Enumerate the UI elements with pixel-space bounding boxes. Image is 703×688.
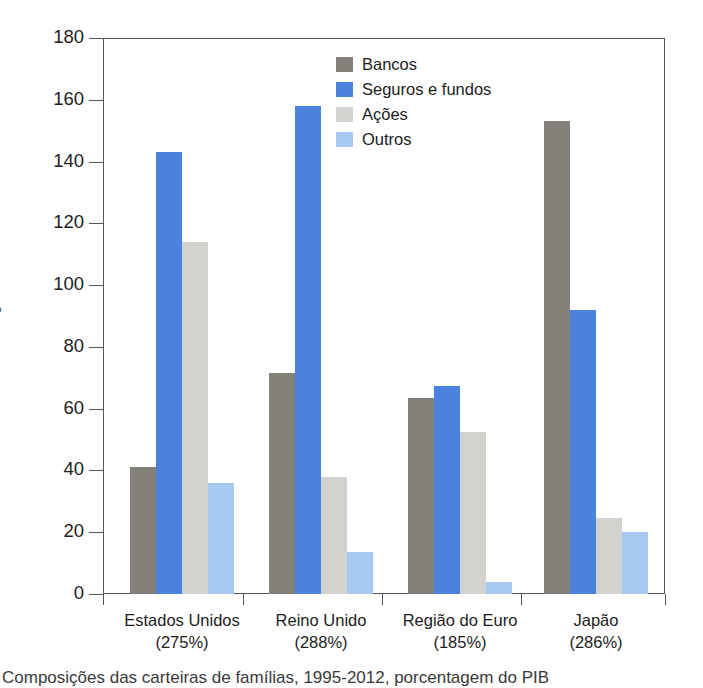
chart-legend: BancosSeguros e fundosAçõesOutros bbox=[336, 52, 491, 152]
y-tick-label: 140 bbox=[20, 150, 84, 172]
legend-label: Ações bbox=[362, 105, 408, 124]
bar bbox=[295, 106, 321, 594]
x-tick-mark bbox=[103, 594, 104, 605]
bar bbox=[156, 152, 182, 594]
bar bbox=[347, 552, 373, 594]
y-axis-title: Porcentagem bbox=[0, 236, 1, 416]
legend-label: Bancos bbox=[362, 55, 417, 74]
y-tick-mark bbox=[89, 38, 103, 39]
y-tick-label: 20 bbox=[20, 520, 84, 542]
figure-caption: Composições das carteiras de famílias, 1… bbox=[2, 668, 549, 688]
legend-item: Seguros e fundos bbox=[336, 77, 491, 102]
y-tick-mark bbox=[89, 594, 103, 595]
x-axis-group-label: Japão(286%) bbox=[496, 610, 696, 654]
legend-swatch-icon bbox=[336, 107, 353, 122]
y-tick-label: 60 bbox=[20, 397, 84, 419]
legend-item: Bancos bbox=[336, 52, 491, 77]
y-tick-mark bbox=[89, 223, 103, 224]
legend-item: Outros bbox=[336, 127, 491, 152]
bar bbox=[321, 477, 347, 594]
x-tick-mark bbox=[665, 594, 666, 605]
y-tick-mark bbox=[89, 532, 103, 533]
bar bbox=[596, 518, 622, 594]
x-tick-mark bbox=[243, 594, 244, 605]
bar bbox=[434, 386, 460, 595]
bar bbox=[570, 310, 596, 594]
x-axis-group-percent: (286%) bbox=[496, 632, 696, 654]
y-tick-mark bbox=[89, 347, 103, 348]
y-tick-mark bbox=[89, 285, 103, 286]
bar bbox=[269, 373, 295, 594]
bar bbox=[182, 242, 208, 594]
x-axis-group-name: Japão bbox=[574, 611, 619, 629]
bar bbox=[622, 532, 648, 594]
y-tick-mark bbox=[89, 470, 103, 471]
y-tick-label: 160 bbox=[20, 88, 84, 110]
y-tick-label: 120 bbox=[20, 211, 84, 233]
bar bbox=[460, 432, 486, 594]
bar bbox=[486, 582, 512, 594]
x-tick-mark bbox=[382, 594, 383, 605]
legend-swatch-icon bbox=[336, 57, 353, 72]
legend-item: Ações bbox=[336, 102, 491, 127]
y-tick-mark bbox=[89, 162, 103, 163]
y-tick-label: 40 bbox=[20, 458, 84, 480]
legend-swatch-icon bbox=[336, 132, 353, 147]
y-tick-label: 80 bbox=[20, 335, 84, 357]
y-tick-mark bbox=[89, 100, 103, 101]
x-tick-mark bbox=[521, 594, 522, 605]
x-axis-group-name: Reino Unido bbox=[276, 611, 367, 629]
bar bbox=[130, 467, 156, 594]
y-tick-mark bbox=[89, 409, 103, 410]
bar bbox=[544, 121, 570, 594]
legend-swatch-icon bbox=[336, 82, 353, 97]
y-tick-label: 0 bbox=[20, 582, 84, 604]
y-tick-label: 100 bbox=[20, 273, 84, 295]
bar bbox=[208, 483, 234, 594]
bar bbox=[408, 398, 434, 594]
legend-label: Outros bbox=[362, 130, 412, 149]
y-tick-label: 180 bbox=[20, 26, 84, 48]
legend-label: Seguros e fundos bbox=[362, 80, 491, 99]
